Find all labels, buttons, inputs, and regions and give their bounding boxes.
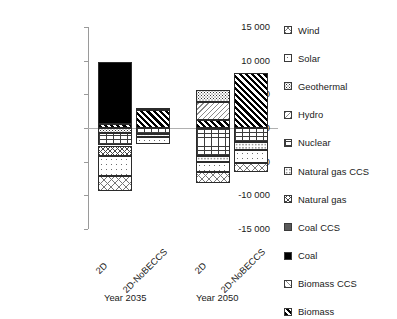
legend-label: Coal CCS (298, 222, 340, 233)
legend-label: Geothermal (298, 81, 347, 92)
y-tick (84, 94, 88, 95)
legend-label: Coal (298, 250, 317, 261)
bar-segment-nuclear (196, 128, 230, 156)
bar-segment-solar (98, 156, 132, 176)
legend-item-solar[interactable]: Solar (284, 44, 396, 72)
bar-bar-2dnobeccs-2035 (136, 27, 170, 229)
legend-item-coalccs[interactable]: Coal CCS (284, 213, 396, 241)
y-tick (84, 162, 88, 163)
group-label-1: Year 2035 (104, 292, 146, 303)
y-tick (84, 128, 88, 129)
legend-label: Wind (298, 25, 320, 36)
y-tick (84, 229, 88, 230)
bar-segment-nuclear (234, 128, 268, 142)
bar-segment-wind (98, 176, 132, 191)
bar-segment-biomass (196, 120, 230, 128)
bar-bar-2dnobeccs-2050 (234, 27, 268, 229)
bar-bar-2d-2035 (98, 27, 132, 229)
x-tick-label-2: 2D (193, 261, 208, 276)
legend-item-natgasccs[interactable]: Natural gas CCS (284, 157, 396, 185)
legend-swatch-coal-icon (284, 252, 292, 260)
legend-swatch-biomass-icon (284, 308, 292, 316)
legend-swatch-hydro-icon (284, 111, 292, 119)
legend-label: Biomass CCS (298, 278, 357, 289)
bar-segment-hydro (196, 102, 230, 120)
legend-label: Hydro (298, 109, 323, 120)
legend-item-geothermal[interactable]: Geothermal (284, 72, 396, 100)
legend-item-coal[interactable]: Coal (284, 242, 396, 270)
legend-label: Solar (298, 53, 320, 64)
x-tick-label-0: 2D (94, 261, 109, 276)
bar-segment-geothermal (136, 108, 170, 110)
chart-figure: Difference in electricity generation (PJ… (0, 0, 397, 319)
y-tick (84, 195, 88, 196)
legend-swatch-natgas-icon (284, 195, 292, 203)
legend-label: Natural gas (298, 194, 347, 205)
legend-label: Nuclear (298, 137, 331, 148)
bar-segment-geothermal (196, 90, 230, 103)
bar-segment-solar (136, 137, 170, 144)
bar-segment-solar (196, 162, 230, 173)
group-label-2: Year 2050 (196, 292, 238, 303)
legend-swatch-natgasccs-icon (284, 167, 292, 175)
legend-item-biomass[interactable]: Biomass (284, 298, 396, 319)
legend-swatch-wind-icon (284, 26, 292, 34)
bar-bar-2d-2050 (196, 27, 230, 229)
legend-item-natgas[interactable]: Natural gas (284, 185, 396, 213)
bar-segment-nuclear (98, 133, 132, 146)
y-tick (84, 61, 88, 62)
plot-area: 15 00010 00050000-5000-10 000-15 000 (88, 27, 278, 229)
legend-label: Natural gas CCS (298, 166, 369, 177)
bar-segment-biomass (234, 73, 268, 128)
legend-item-nuclear[interactable]: Nuclear (284, 129, 396, 157)
legend-swatch-nuclear-icon (284, 139, 292, 147)
bar-segment-wind (234, 163, 268, 172)
x-tick-label-1: 2D-NoBECCS (121, 247, 169, 295)
legend-swatch-solar-icon (284, 54, 292, 62)
bar-segment-coal (98, 62, 132, 124)
y-tick (84, 27, 88, 28)
legend-item-hydro[interactable]: Hydro (284, 101, 396, 129)
chart-legend: WindSolarGeothermalHydroNuclearNatural g… (284, 16, 396, 319)
bar-segment-natgasccs (234, 142, 268, 149)
bar-segment-biomass (136, 110, 170, 128)
legend-swatch-biomassccs-icon (284, 280, 292, 288)
bar-segment-solar (234, 150, 268, 163)
bar-segment-wind (196, 172, 230, 182)
legend-swatch-coalccs-icon (284, 223, 292, 231)
legend-item-wind[interactable]: Wind (284, 16, 396, 44)
bar-segment-natgas (98, 146, 132, 156)
legend-item-biomassccs[interactable]: Biomass CCS (284, 270, 396, 298)
legend-label: Biomass (298, 306, 334, 317)
legend-swatch-geothermal-icon (284, 82, 292, 90)
x-tick-label-3: 2D-NoBECCS (219, 247, 267, 295)
